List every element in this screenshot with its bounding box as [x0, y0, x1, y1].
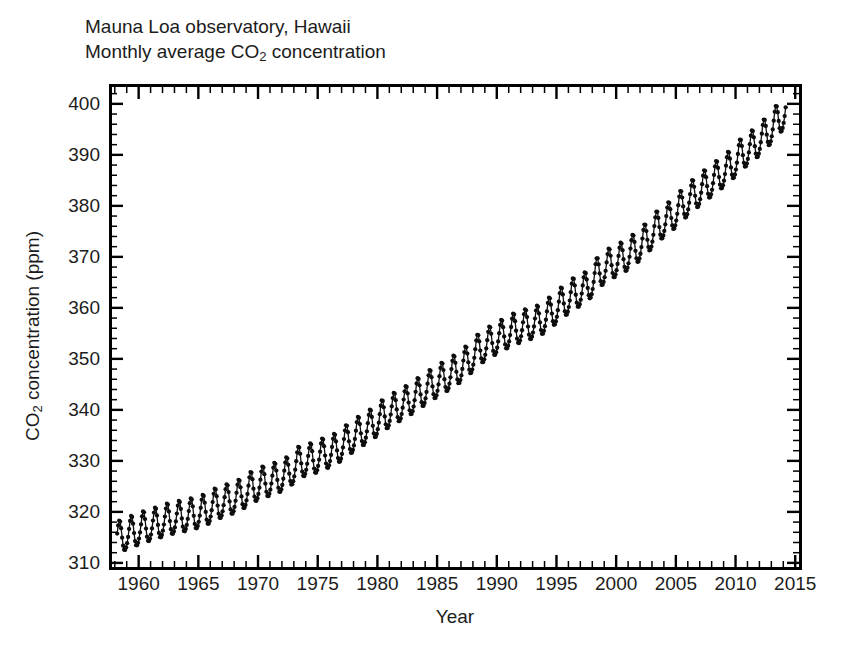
co2-series-markers [115, 104, 788, 552]
co2-figure: Mauna Loa observatory, Hawaii Monthly av… [0, 0, 859, 663]
plot-area [0, 0, 859, 663]
co2-series-line [117, 106, 786, 550]
